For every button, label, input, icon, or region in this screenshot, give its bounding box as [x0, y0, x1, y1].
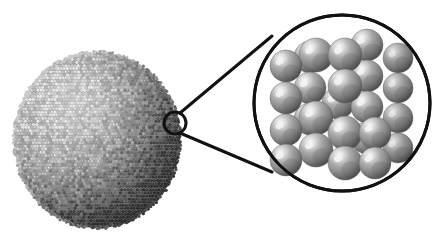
- lattice-sphere: [328, 146, 362, 180]
- figure-canvas: [0, 0, 445, 240]
- lattice-sphere-shadow: [363, 74, 381, 90]
- lattice-sphere-shadow: [371, 161, 389, 177]
- lattice-sphere-shadow: [395, 87, 412, 102]
- lattice-sphere-shadow: [395, 117, 412, 132]
- lattice-sphere-shadow: [334, 101, 352, 117]
- lattice-sphere-shadow: [341, 84, 360, 101]
- lattice-sphere: [359, 117, 391, 149]
- lattice-sphere: [270, 50, 302, 82]
- lattice-sphere-shadow: [282, 64, 300, 80]
- lattice-sphere: [328, 116, 362, 150]
- lattice-sphere: [359, 147, 391, 179]
- lattice-sphere-shadow: [282, 128, 300, 144]
- lattice-sphere-shadow: [341, 161, 360, 178]
- lattice-sphere-shadow: [371, 131, 389, 147]
- lattice-sphere-shadow: [306, 86, 324, 102]
- magnified-lattice-inset: [254, 15, 430, 191]
- lattice-sphere: [328, 69, 362, 103]
- lattice-sphere: [328, 38, 362, 72]
- lattice-sphere-shadow: [341, 53, 360, 70]
- lattice-sphere-shadow: [363, 43, 381, 59]
- lattice-sphere: [270, 114, 302, 146]
- figure-root: [0, 0, 445, 240]
- lattice-sphere-shadow: [282, 96, 300, 112]
- lattice-sphere-shadow: [395, 57, 412, 72]
- lattice-sphere: [383, 73, 413, 103]
- lattice-sphere-group: [270, 29, 413, 180]
- lattice-sphere: [270, 82, 302, 114]
